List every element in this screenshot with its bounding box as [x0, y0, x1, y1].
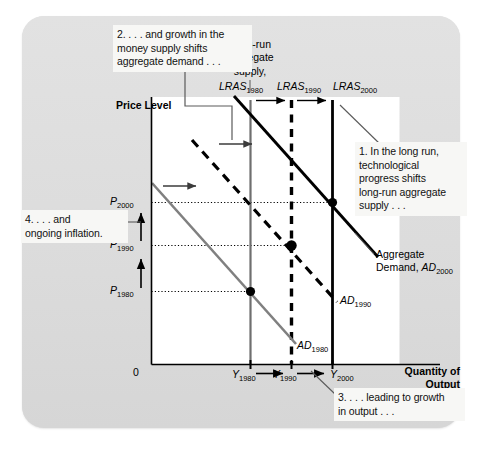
- origin-label: 0: [133, 366, 139, 378]
- x-tick-label-y1980: Y1980: [232, 368, 256, 383]
- lras-label-sub-2000: 2000: [360, 86, 377, 95]
- ad-label-base-1980: AD: [297, 339, 312, 351]
- y-tick-sub-p1980: 1980: [117, 290, 134, 299]
- lras-label-1980: LRAS1980: [219, 80, 263, 95]
- callout-3: 3. . . . leading to growth in output . .…: [334, 388, 465, 421]
- y-axis-title: Price Level: [116, 99, 171, 112]
- y-tick-label-p2000: P2000: [110, 195, 134, 210]
- ad-label-prefix-2000: Aggregate Demand,: [376, 248, 424, 273]
- x-tick-label-y2000: Y2000: [330, 368, 354, 383]
- lras-label-base-1980: LRAS: [219, 80, 246, 92]
- lras-label-1990: LRAS1990: [277, 80, 321, 95]
- equilibrium-point-1980: [246, 287, 255, 296]
- y-tick-base-p2000: P: [110, 195, 117, 207]
- ad-label-sub-1990: 1990: [355, 300, 372, 309]
- callout-2: 2. . . . and growth in the money supply …: [113, 25, 252, 72]
- equilibrium-point-1990: [286, 240, 296, 250]
- y-tick-sub-p1990: 1990: [117, 244, 134, 253]
- ad-label-sub-2000: 2000: [436, 267, 453, 276]
- ad-label-base-1990: AD: [340, 294, 355, 306]
- y-tick-base-p1980: P: [110, 284, 117, 296]
- callout-4: 4. . . . and ongoing inflation.: [21, 210, 128, 243]
- x-tick-base-y1980: Y: [232, 368, 239, 380]
- x-tick-base-y2000: Y: [330, 368, 337, 380]
- lras-label-base-2000: LRAS: [333, 80, 360, 92]
- ad-label-base-2000: AD: [422, 261, 437, 273]
- x-tick-label-y1990: Y1990: [273, 368, 297, 383]
- y-tick-label-p1980: P1980: [110, 284, 134, 299]
- ad-label-sub-1980: 1980: [312, 345, 329, 354]
- lras-label-2000: LRAS2000: [333, 80, 377, 95]
- ad-label-1990: AD1990: [340, 294, 371, 311]
- x-tick-sub-y2000: 2000: [337, 374, 354, 383]
- x-tick-sub-y1990: 1990: [280, 374, 297, 383]
- lras-label-base-1990: LRAS: [277, 80, 304, 92]
- lras-label-sub-1980: 1980: [246, 86, 263, 95]
- plot-area-background: [152, 97, 400, 364]
- callout-1: 1. In the long run, technological progre…: [355, 142, 467, 216]
- x-tick-sub-y1980: 1980: [239, 374, 256, 383]
- ad-label-2000: Aggregate Demand, AD2000: [376, 248, 453, 278]
- equilibrium-point-2000: [328, 198, 337, 207]
- ad-label-1980: AD1980: [297, 339, 328, 356]
- figure-container: Price Level Quantity of Output 0 P2000 P…: [0, 0, 500, 449]
- lras-label-sub-1990: 1990: [304, 86, 321, 95]
- y-tick-sub-p2000: 2000: [117, 201, 134, 210]
- x-tick-base-y1990: Y: [273, 368, 280, 380]
